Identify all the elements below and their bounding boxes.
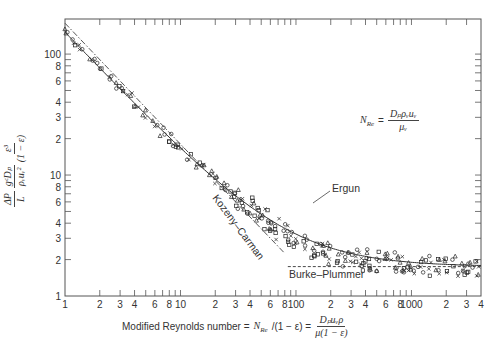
y-tick-label: 1 [55,291,61,302]
data-point-x [213,182,216,185]
formula-lhs: N [360,114,367,125]
data-point-square [424,259,427,262]
ylabel-f1-num: ΔP [2,191,15,207]
data-point-circle [286,238,290,242]
x-axis-label-tail: /(1 − ε) = [272,321,311,332]
reynolds-number-formula: NRe = Dₚρᵥuᵥ μᵥ [360,108,419,133]
data-point-circle [394,270,398,274]
formula-equals: = [378,115,384,126]
data-point-x [289,234,292,237]
x-axis-label: Modified Reynolds number = NRe /(1 − ε) … [122,314,348,339]
data-point-circle [456,271,460,275]
data-point-x [274,238,277,241]
y-tick-label: 6 [55,197,61,208]
chart-plot-area: 1234681023468100234681000234 12346810234… [0,0,498,348]
x-axis-label-nre: NRe [254,320,268,334]
data-point-square [274,231,277,234]
kozeny-carman-line [65,23,285,253]
data-point-x [144,116,147,119]
ergun-label: Ergun [332,182,360,194]
data-point-square [316,253,319,256]
data-point-circle [451,258,455,262]
data-point-triangle [327,262,331,266]
ylabel-fraction-3: ε³(1 − ε) [2,135,27,162]
x-tick-label: 2 [97,299,103,310]
data-point-x [407,269,410,272]
ylabel-fraction-2: gᶜDₚρᵥuᵥ² [2,165,27,188]
xlabel-nre-sub: Re [260,326,267,334]
data-point-x [475,260,478,263]
data-point-square [428,274,431,277]
y-tick-label: 10 [50,170,62,181]
y-tick-label: 6 [55,76,61,87]
x-tick-label: 6 [268,299,274,310]
data-point-circle [226,183,230,187]
formula-lhs-sub: Re [367,120,374,128]
data-point-square [354,260,357,263]
x-tick-label: 3 [348,299,354,310]
y-tick-label: 3 [55,112,61,123]
data-point-triangle [222,181,226,185]
data-point-square [253,214,256,217]
data-point-triangle [343,259,347,263]
ylabel-f1-den: L [15,196,27,202]
ylabel-f3-den: (1 − ε) [15,135,27,162]
ylabel-f3-num: ε³ [2,143,15,154]
x-tick-label: 2 [443,299,449,310]
ergun-leader-line [313,191,330,203]
ylabel-f2-den: ρᵥuᵥ² [15,168,27,186]
x-tick-label: 3 [464,299,470,310]
data-point-x [427,267,430,270]
x-tick-label: 6 [383,299,389,310]
y-tick-label: 8 [55,182,61,193]
y-axis-ticks: 1234681023468100 [44,49,481,302]
x-tick-label: 4 [132,299,138,310]
x-tick-label: 4 [363,299,369,310]
y-axis-label: ΔPL gᶜDₚρᵥuᵥ² ε³(1 − ε) [3,91,25,251]
data-point-circle [303,244,307,248]
y-tick-label: 2 [55,134,61,145]
data-point-x [263,207,266,210]
data-point-square [168,140,171,143]
data-point-square [263,227,266,230]
data-point-square [292,245,295,248]
data-point-x [360,257,363,260]
x-tick-label: 6 [152,299,158,310]
data-point-circle [377,259,381,263]
data-point-square [256,206,259,209]
y-tick-label: 3 [55,233,61,244]
x-tick-label: 4 [247,299,253,310]
formula-numerator: Dₚρᵥuᵥ [388,108,419,121]
data-point-x [401,255,404,258]
x-tick-label: 10 [175,299,187,310]
y-tick-label: 100 [44,49,61,60]
y-tick-label: 8 [55,61,61,72]
data-point-x [354,255,357,258]
x-tick-label: 100 [288,299,305,310]
x-tick-label: 1000 [400,299,423,310]
data-point-circle [421,271,425,275]
x-tick-label: 3 [233,299,239,310]
data-point-x [303,248,306,251]
plot-frame [65,19,481,296]
x-axis-label-fraction: Dₚuᵥρ μ(1 − ε) [315,314,347,339]
data-point-triangle [158,134,162,138]
data-point-triangle [453,254,457,258]
data-point-circle [428,254,432,258]
xlabel-frac-num: Dₚuᵥρ [317,314,345,327]
data-point-triangle [326,241,330,245]
data-point-x [328,257,331,260]
data-point-square [377,250,380,253]
formula-denominator: μᵥ [399,121,407,133]
data-point-circle [393,251,397,255]
y-tick-label: 4 [55,218,61,229]
x-tick-label: 2 [328,299,334,310]
data-point-x [438,272,441,275]
data-point-square [168,140,171,143]
x-tick-label: 2 [212,299,218,310]
data-point-x [277,217,280,220]
burke-plummer-label: Burke–Plummer [289,268,365,280]
x-tick-label: 3 [117,299,123,310]
x-tick-label: 8 [167,299,173,310]
formula-fraction: Dₚρᵥuᵥ μᵥ [388,108,419,133]
